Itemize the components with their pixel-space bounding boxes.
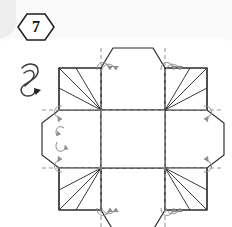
- diagram-canvas: 7: [0, 0, 232, 227]
- origami-net-figure: [0, 0, 232, 227]
- step-badge-hexagon: [18, 14, 54, 40]
- flap-left: [42, 110, 101, 168]
- center-square: [101, 110, 165, 168]
- turn-over-arrow-icon: [21, 64, 41, 96]
- flap-right: [165, 110, 224, 168]
- flap-top: [101, 48, 165, 110]
- flap-bottom: [101, 168, 165, 227]
